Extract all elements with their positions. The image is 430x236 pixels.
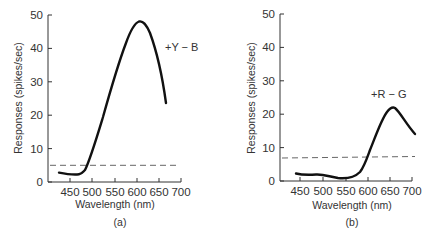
x-tick-label: 450 bbox=[60, 186, 79, 198]
y-axis-label-a: Responses (spikes/sec) bbox=[12, 42, 24, 153]
x-axis-label-a: Wavelength (nm) bbox=[75, 198, 155, 210]
y-tick-label: 10 bbox=[30, 143, 43, 155]
annotation-r-g: +R − G bbox=[371, 88, 406, 100]
y-axis-label-b: Responses (spikes/sec) bbox=[245, 42, 257, 153]
y-tick-label: 40 bbox=[262, 41, 275, 53]
x-tick-label: 550 bbox=[105, 186, 124, 198]
x-tick-label: 650 bbox=[380, 185, 399, 197]
annotation-y-b: +Y − B bbox=[165, 41, 198, 53]
response-curve-a bbox=[59, 21, 166, 174]
y-tick-label: 30 bbox=[30, 76, 43, 88]
x-tick-label: 700 bbox=[171, 186, 190, 198]
y-tick-label: 50 bbox=[262, 8, 275, 20]
y-tick-label: 0 bbox=[269, 175, 275, 187]
y-tick-label: 10 bbox=[262, 142, 275, 154]
x-tick-label: 600 bbox=[127, 186, 146, 198]
panel-label-a: (a) bbox=[114, 216, 127, 228]
panel-a: 0 10 20 30 40 50 450 500 550 600 650 700 bbox=[12, 9, 198, 228]
y-tick-label: 40 bbox=[30, 42, 43, 54]
y-tick-label: 20 bbox=[262, 108, 275, 120]
y-tick-label: 20 bbox=[30, 109, 43, 121]
x-tick-label: 600 bbox=[358, 185, 377, 197]
panel-label-b: (b) bbox=[346, 216, 359, 228]
x-tick-label: 500 bbox=[313, 185, 332, 197]
y-tick-label: 50 bbox=[30, 9, 43, 21]
x-tick-label: 700 bbox=[402, 185, 421, 197]
x-tick-label: 550 bbox=[336, 185, 355, 197]
x-tick-label: 500 bbox=[82, 186, 101, 198]
spontaneous-rate-line-b bbox=[282, 157, 415, 159]
y-tick-label: 30 bbox=[262, 75, 275, 87]
x-tick-label: 450 bbox=[290, 185, 309, 197]
x-axis-label-b: Wavelength (nm) bbox=[312, 199, 392, 211]
panel-b: 0 10 20 30 40 50 450 500 550 600 650 700… bbox=[245, 8, 422, 228]
x-tick-label: 650 bbox=[149, 186, 168, 198]
y-tick-label: 0 bbox=[37, 176, 43, 188]
response-curve-b bbox=[296, 107, 415, 178]
figure: 0 10 20 30 40 50 450 500 550 600 650 700 bbox=[0, 0, 430, 236]
